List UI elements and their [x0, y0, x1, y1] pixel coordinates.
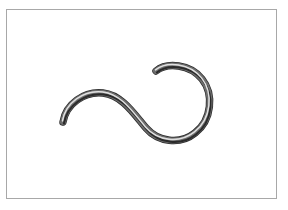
- tube-outline: [63, 66, 210, 141]
- tube-body: [63, 66, 210, 141]
- curve-canvas: [0, 0, 288, 210]
- tube-highlight: [63, 65, 210, 140]
- figure-root: Shaded tube curve: [0, 0, 288, 210]
- tube-shadow-edge: [64, 67, 211, 142]
- tube-group: [62, 64, 210, 142]
- tube-highlight-core: [62, 64, 209, 139]
